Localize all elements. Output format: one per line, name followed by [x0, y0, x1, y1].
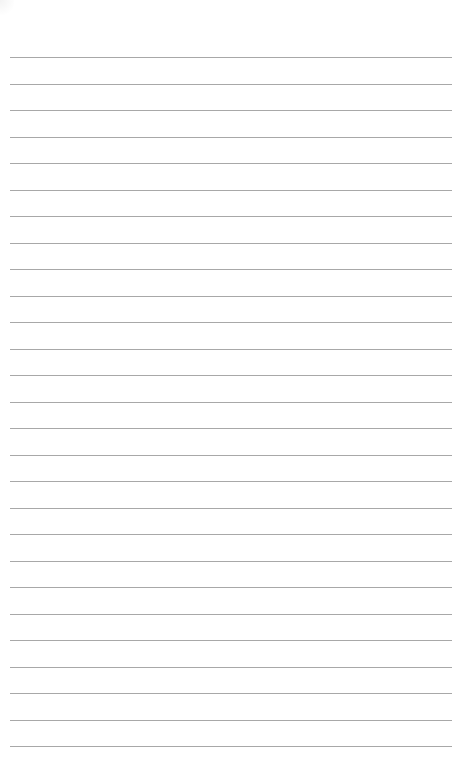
ruled-line [10, 614, 452, 615]
ruled-line [10, 693, 452, 694]
ruled-line [10, 216, 452, 217]
ruled-line [10, 57, 452, 58]
ruled-line [10, 455, 452, 456]
ruled-line [10, 190, 452, 191]
ruled-line [10, 269, 452, 270]
ruled-line [10, 163, 452, 164]
ruled-line [10, 667, 452, 668]
ruled-line [10, 640, 452, 641]
ruled-line [10, 720, 452, 721]
lined-paper-sheet [0, 0, 472, 784]
ruled-line [10, 296, 452, 297]
ruled-line [10, 746, 452, 747]
ruled-line [10, 587, 452, 588]
ruled-line [10, 375, 452, 376]
ruled-line [10, 84, 452, 85]
ruled-line [10, 534, 452, 535]
corner-shadow [0, 0, 14, 18]
ruled-line [10, 243, 452, 244]
ruled-line [10, 349, 452, 350]
ruled-line [10, 561, 452, 562]
ruled-line [10, 322, 452, 323]
ruled-line [10, 508, 452, 509]
ruled-line [10, 428, 452, 429]
ruled-line [10, 481, 452, 482]
ruled-line [10, 110, 452, 111]
ruled-line [10, 137, 452, 138]
ruled-line [10, 402, 452, 403]
